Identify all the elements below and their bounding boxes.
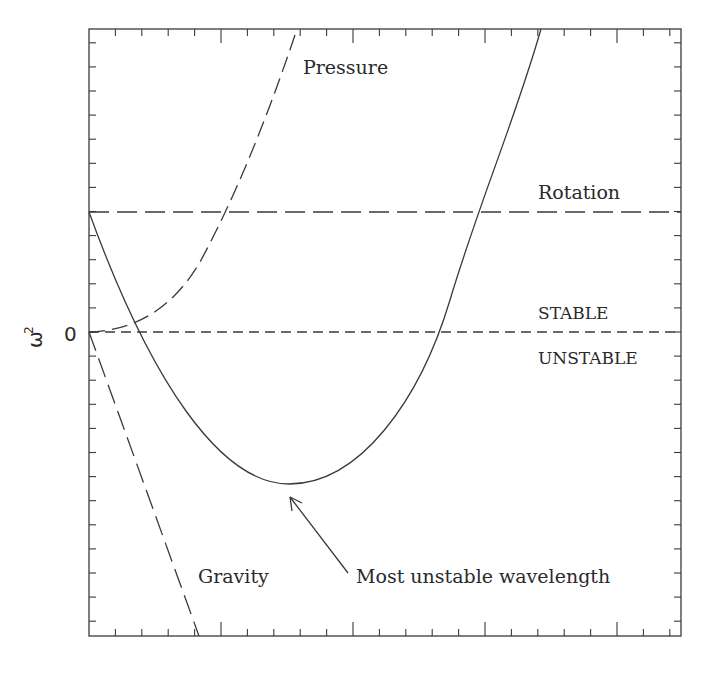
gravity-label: Gravity — [198, 565, 269, 587]
y-axis-label: ω 2 — [22, 326, 47, 348]
gravity-line — [89, 332, 199, 636]
most-unstable-label: Most unstable wavelength — [356, 565, 610, 587]
omega-exponent: 2 — [22, 326, 36, 334]
annotation-arrow-shaft — [290, 497, 348, 573]
stable-label: STABLE — [538, 303, 609, 323]
dispersion-chart: Pressure Rotation STABLE UNSTABLE Gravit… — [0, 0, 715, 680]
total-dispersion-curve — [89, 29, 541, 484]
y-zero-tick-label: 0 — [64, 322, 77, 346]
rotation-label: Rotation — [538, 181, 620, 203]
pressure-curve — [89, 29, 297, 332]
pressure-label: Pressure — [303, 56, 388, 78]
unstable-label: UNSTABLE — [538, 348, 638, 368]
